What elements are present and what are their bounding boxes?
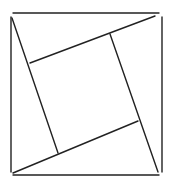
outer-square	[11, 13, 162, 175]
square-diagram	[0, 0, 171, 188]
top-slant-line	[30, 16, 155, 63]
inner-segments	[12, 16, 158, 173]
right-diagonal-line	[110, 34, 158, 172]
left-diagonal-line	[12, 18, 58, 153]
bottom-slant-line	[13, 121, 138, 173]
